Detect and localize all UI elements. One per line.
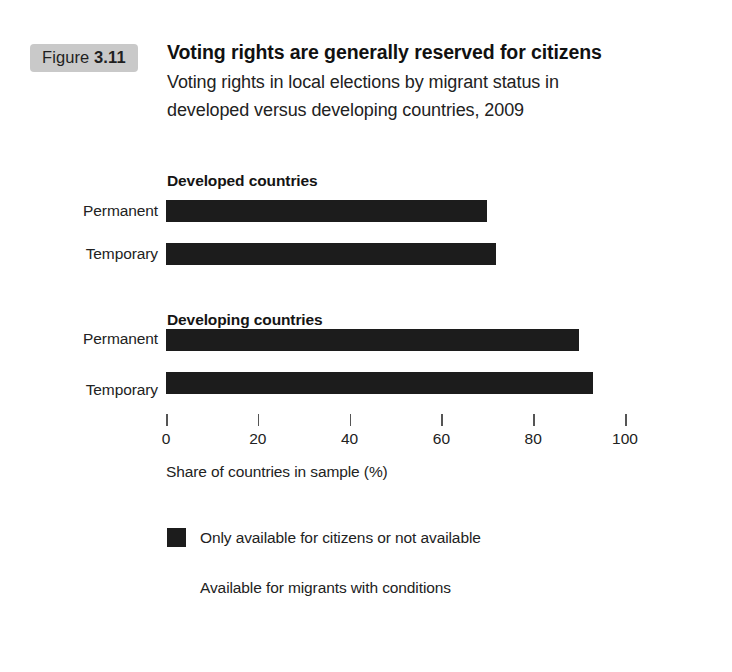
x-axis-tick-mark (533, 414, 535, 426)
x-axis-title: Share of countries in sample (%) (166, 463, 388, 481)
x-axis-tick-mark (350, 414, 352, 426)
x-axis-tick-mark (166, 414, 168, 426)
x-axis-tick-label: 0 (141, 430, 191, 448)
x-axis-tick-label: 100 (600, 430, 650, 448)
bar-developing-temporary (166, 372, 593, 394)
legend-item-migrants-conditions: Available for migrants with conditions (167, 578, 451, 597)
x-axis-tick-mark (441, 414, 443, 426)
chart-plot-area: Developed countries Permanent Temporary … (0, 0, 732, 672)
group-header-developing: Developing countries (167, 311, 323, 329)
category-label-developing-temporary: Temporary (48, 381, 158, 399)
legend-item-citizens-only: Only available for citizens or not avail… (167, 528, 481, 547)
group-header-developed: Developed countries (167, 172, 318, 190)
category-label-developing-permanent: Permanent (48, 330, 158, 348)
x-axis-tick-label: 40 (325, 430, 375, 448)
bar-developing-permanent (166, 329, 579, 351)
x-axis-tick-label: 80 (508, 430, 558, 448)
legend-label-migrants-conditions: Available for migrants with conditions (200, 579, 451, 597)
bar-developed-permanent (166, 200, 487, 222)
category-label-developed-permanent: Permanent (48, 202, 158, 220)
legend-swatch-icon-citizens-only (167, 528, 186, 547)
x-axis-tick-label: 60 (416, 430, 466, 448)
x-axis-tick-mark (258, 414, 260, 426)
legend-swatch-icon-migrants-conditions (167, 578, 186, 597)
category-label-developed-temporary: Temporary (48, 245, 158, 263)
bar-developed-temporary (166, 243, 496, 265)
legend-label-citizens-only: Only available for citizens or not avail… (200, 529, 481, 547)
x-axis-tick-label: 20 (233, 430, 283, 448)
x-axis-tick-mark (625, 414, 627, 426)
